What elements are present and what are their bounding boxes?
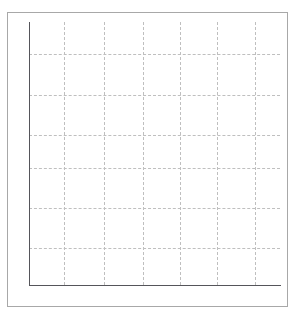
gridline-horizontal [29,54,280,55]
gridline-horizontal [29,135,280,136]
gridline-horizontal [29,168,280,169]
gridline-vertical [180,22,181,285]
grid-layer [29,22,280,285]
figure-root [0,0,305,322]
x-axis-spine [29,285,281,286]
gridline-vertical [143,22,144,285]
plot-area [29,22,280,285]
gridline-vertical [104,22,105,285]
gridline-vertical [217,22,218,285]
gridline-horizontal [29,208,280,209]
gridline-horizontal [29,248,280,249]
gridline-vertical [64,22,65,285]
gridline-horizontal [29,95,280,96]
y-axis-spine [29,22,30,286]
gridline-vertical [255,22,256,285]
